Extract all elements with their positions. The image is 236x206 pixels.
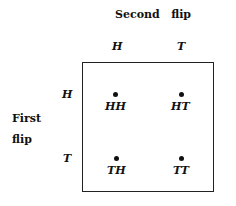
column-label-t: T [177, 40, 185, 53]
outcome-label-ht: HT [171, 100, 190, 113]
outcome-label-tt: TT [173, 164, 189, 177]
outcome-point-th [114, 156, 119, 161]
row-label-t: T [63, 152, 71, 165]
row-title-first: First [12, 112, 41, 125]
row-title-flip: flip [12, 133, 32, 146]
column-title: Second flip [115, 8, 191, 21]
column-label-h: H [112, 40, 122, 53]
sample-space-box [82, 62, 214, 192]
outcome-point-ht [179, 92, 184, 97]
row-label-h: H [62, 88, 72, 101]
outcome-point-tt [179, 156, 184, 161]
outcome-label-th: TH [107, 164, 126, 177]
outcome-point-hh [113, 92, 118, 97]
outcome-label-hh: HH [105, 100, 126, 113]
